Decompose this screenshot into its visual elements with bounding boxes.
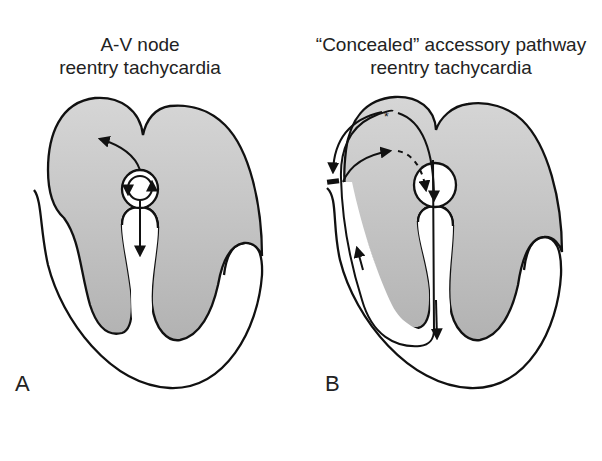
panel-b-label: B bbox=[325, 371, 340, 397]
panel-a-heart bbox=[34, 98, 262, 388]
heart-diagram: * bbox=[0, 0, 602, 461]
panel-b-block-marker bbox=[327, 178, 340, 185]
panel-a-label: A bbox=[15, 371, 30, 397]
panel-b-heart bbox=[327, 97, 562, 388]
panel-b-asterisk: * bbox=[384, 110, 389, 124]
